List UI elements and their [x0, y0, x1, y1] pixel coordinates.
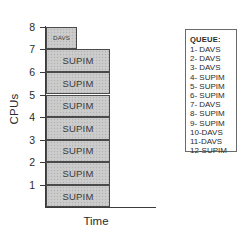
task-bar-label: SUPIM	[62, 145, 93, 156]
task-bar-label: SUPIM	[62, 78, 93, 89]
task-bar: DAVS	[46, 27, 77, 50]
y-tick-mark	[40, 95, 45, 96]
queue-item: 5- SUPIM	[190, 82, 236, 91]
y-tick-mark	[40, 49, 45, 50]
y-tick-mark	[40, 162, 45, 163]
task-bar-label: DAVS	[53, 34, 70, 41]
y-axis-title: CPUs	[8, 86, 20, 132]
queue-list: 1- DAVS2- DAVS3- DAVS4- SUPIM5- SUPIM6- …	[190, 45, 236, 155]
task-bar-label: SUPIM	[62, 123, 93, 134]
task-bar: SUPIM	[46, 95, 110, 118]
queue-item: 1- DAVS	[190, 45, 236, 54]
y-tick-mark	[40, 185, 45, 186]
y-tick-mark	[40, 140, 45, 141]
queue-item: 3- DAVS	[190, 63, 236, 72]
queue-item: 8- SUPIM	[190, 109, 236, 118]
queue-item: 10-DAVS	[190, 128, 236, 137]
queue-item: 7- DAVS	[190, 100, 236, 109]
task-bar: SUPIM	[46, 140, 110, 163]
x-axis-title: Time	[60, 215, 132, 227]
y-tick-label: 3	[13, 135, 35, 146]
y-tick-mark	[40, 72, 45, 73]
y-tick-mark	[40, 117, 45, 118]
queue-item: 2- DAVS	[190, 54, 236, 63]
task-bar-label: SUPIM	[62, 55, 93, 66]
task-bar: SUPIM	[46, 185, 110, 208]
task-bar: SUPIM	[46, 162, 110, 185]
queue-title: QUEUE:	[190, 35, 236, 44]
queue-item: 4- SUPIM	[190, 73, 236, 82]
task-bar: SUPIM	[46, 72, 110, 95]
task-bar-label: SUPIM	[62, 191, 93, 202]
y-tick-label: 8	[13, 22, 35, 33]
y-tick-label: 6	[13, 67, 35, 78]
y-tick-label: 7	[13, 44, 35, 55]
queue-item: 9- SUPIM	[190, 119, 236, 128]
task-bar: SUPIM	[46, 49, 110, 72]
queue-item: 11-DAVS	[190, 137, 236, 146]
queue-panel: QUEUE: 1- DAVS2- DAVS3- DAVS4- SUPIM5- S…	[185, 29, 237, 152]
y-tick-mark	[40, 27, 45, 28]
task-bar-label: SUPIM	[62, 100, 93, 111]
task-bar-label: SUPIM	[62, 168, 93, 179]
queue-item: 12-SUPIM	[190, 146, 236, 155]
scheduling-diagram: 12345678 CPUs Time DAVSDAVSSUPIMSUPIMSUP…	[0, 0, 242, 238]
task-bar: SUPIM	[46, 117, 110, 140]
y-tick-label: 1	[13, 180, 35, 191]
y-tick-label: 2	[13, 157, 35, 168]
queue-item: 6- SUPIM	[190, 91, 236, 100]
